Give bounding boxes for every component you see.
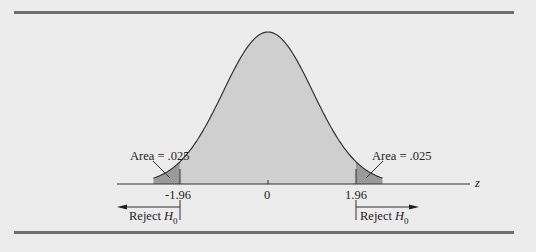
- bottom-rule: [14, 231, 514, 234]
- hypothesis-symbol: H: [395, 209, 404, 223]
- normal-curve-diagram: [0, 0, 536, 252]
- tick-label-zero: 0: [264, 189, 270, 202]
- right-reject-label: Reject H0: [360, 210, 409, 226]
- hypothesis-symbol: H: [164, 209, 173, 223]
- left-arrowhead-icon: [117, 205, 127, 210]
- top-rule: [14, 11, 514, 14]
- hypothesis-subscript: 0: [404, 216, 409, 226]
- tick-label-right: 1.96: [345, 189, 367, 202]
- right-arrowhead-icon: [409, 205, 419, 210]
- right-area-label: Area = .025: [372, 150, 431, 163]
- tick-label-left: -1.96: [165, 189, 191, 202]
- left-area-label: Area = .025: [130, 150, 189, 163]
- hypothesis-subscript: 0: [173, 216, 178, 226]
- z-axis-label: z: [475, 177, 480, 190]
- reject-text: Reject: [360, 209, 392, 223]
- normal-distribution-figure: Area = .025 Area = .025 -1.96 0 1.96 z R…: [0, 0, 536, 252]
- left-reject-label: Reject H0: [129, 210, 178, 226]
- reject-text: Reject: [129, 209, 161, 223]
